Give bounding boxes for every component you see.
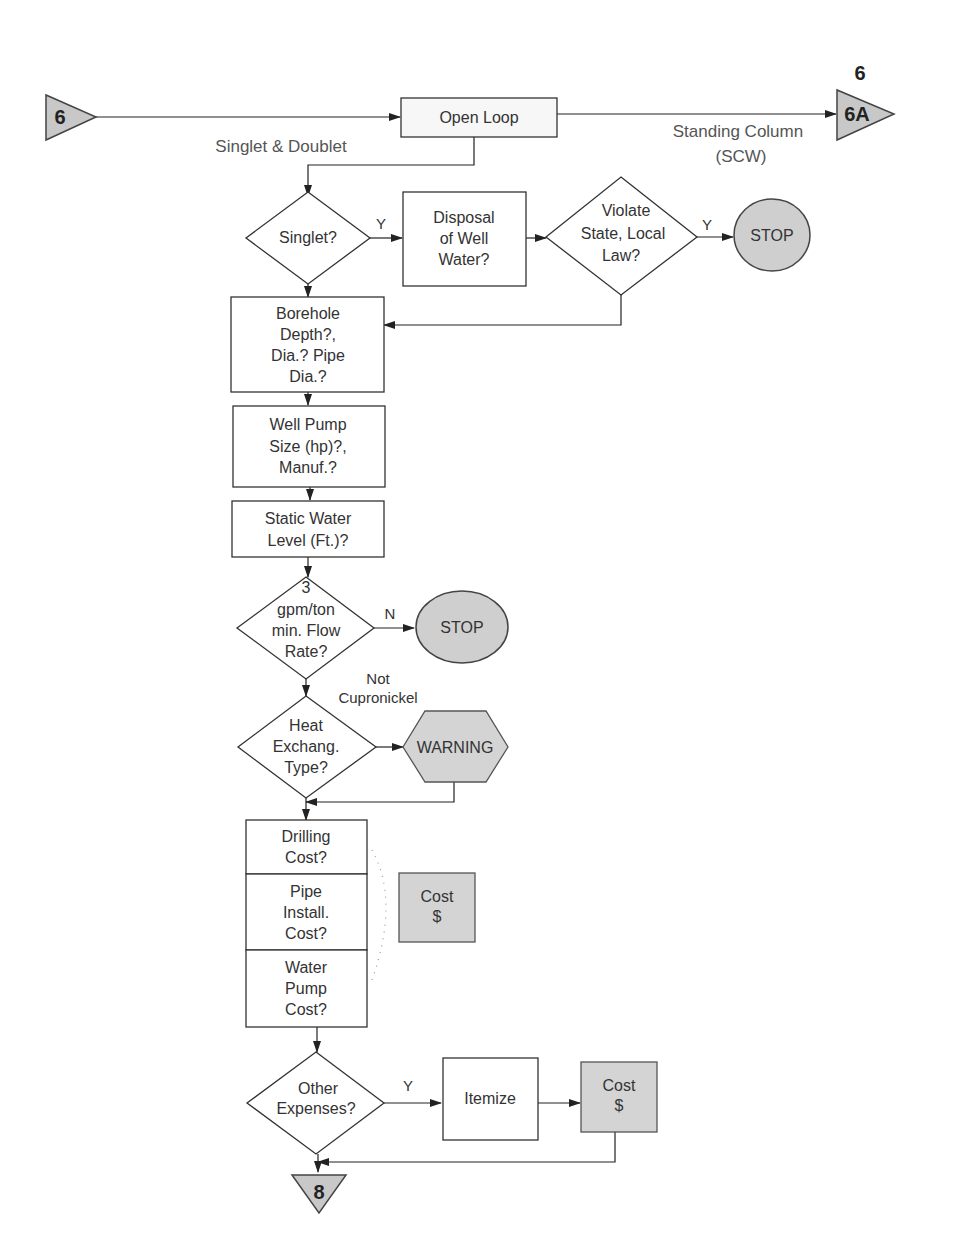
svg-text:Exchang.: Exchang. [273, 738, 340, 755]
svg-text:Disposal: Disposal [433, 209, 494, 226]
svg-text:Cost?: Cost? [285, 849, 327, 866]
node-cost-1[interactable]: Cost $ [399, 873, 475, 942]
connector-8[interactable]: 8 [292, 1175, 346, 1213]
label-violate-yes: Y [702, 216, 712, 233]
svg-text:6A: 6A [844, 103, 870, 125]
node-cost-stack: Drilling Cost? Pipe Install. Cost? Water… [246, 820, 367, 1027]
node-warning[interactable]: WARNING [403, 711, 508, 782]
svg-text:8: 8 [313, 1181, 324, 1203]
svg-text:Manuf.?: Manuf.? [279, 459, 337, 476]
edge-warning-return [306, 781, 454, 802]
svg-text:Open Loop: Open Loop [439, 109, 518, 126]
node-singlet[interactable]: Singlet? [246, 192, 370, 284]
label-flow-no: N [385, 605, 396, 622]
svg-text:STOP: STOP [750, 227, 793, 244]
svg-text:Heat: Heat [289, 717, 323, 734]
svg-text:Static Water: Static Water [265, 510, 352, 527]
label-singlet-yes: Y [376, 215, 386, 232]
node-flow-rate[interactable]: 3 gpm/ton min. Flow Rate? [237, 577, 374, 679]
svg-text:Install.: Install. [283, 904, 329, 921]
svg-text:Violate: Violate [602, 202, 651, 219]
svg-text:Other: Other [298, 1080, 339, 1097]
node-heat-exchang[interactable]: Heat Exchang. Type? [238, 696, 376, 798]
svg-text:min. Flow: min. Flow [272, 622, 341, 639]
label-standing-column: Standing Column [673, 122, 803, 141]
node-stop-2[interactable]: STOP [416, 591, 508, 663]
node-pipe-install-cost[interactable]: Pipe Install. Cost? [246, 874, 367, 950]
node-open-loop[interactable]: Open Loop [401, 98, 557, 137]
svg-text:WARNING: WARNING [417, 739, 494, 756]
node-well-pump[interactable]: Well Pump Size (hp)?, Manuf.? [233, 406, 385, 487]
svg-text:State, Local: State, Local [581, 225, 666, 242]
svg-text:Well Pump: Well Pump [269, 416, 346, 433]
svg-text:6: 6 [854, 62, 865, 84]
svg-text:Cost?: Cost? [285, 1001, 327, 1018]
cost-bracket-dots [372, 850, 386, 980]
svg-text:Cost?: Cost? [285, 925, 327, 942]
svg-text:Water?: Water? [439, 251, 490, 268]
svg-text:Drilling: Drilling [282, 828, 331, 845]
node-other-expenses[interactable]: Other Expenses? [247, 1052, 384, 1154]
svg-text:Size (hp)?,: Size (hp)?, [269, 438, 346, 455]
node-stop-1[interactable]: STOP [734, 199, 810, 271]
connector-6a[interactable]: 6A 6 [837, 62, 894, 140]
label-cupronickel: Cupronickel [338, 689, 417, 706]
svg-text:Dia.? Pipe: Dia.? Pipe [271, 347, 345, 364]
svg-text:$: $ [615, 1097, 624, 1114]
label-singlet-doublet: Singlet & Doublet [215, 137, 347, 156]
svg-text:Level (Ft.)?: Level (Ft.)? [268, 532, 349, 549]
svg-text:gpm/ton: gpm/ton [277, 601, 335, 618]
node-cost-2[interactable]: Cost $ [581, 1062, 657, 1132]
node-borehole[interactable]: Borehole Depth?, Dia.? Pipe Dia.? [231, 297, 384, 392]
svg-text:Law?: Law? [602, 247, 640, 264]
svg-text:Pump: Pump [285, 980, 327, 997]
label-not: Not [366, 670, 390, 687]
svg-text:Cost: Cost [603, 1077, 636, 1094]
svg-text:Type?: Type? [284, 759, 328, 776]
svg-text:Water: Water [285, 959, 328, 976]
svg-text:6: 6 [54, 106, 65, 128]
label-scw: (SCW) [716, 147, 767, 166]
label-other-yes: Y [403, 1077, 413, 1094]
svg-text:Depth?,: Depth?, [280, 326, 336, 343]
svg-text:Singlet?: Singlet? [279, 229, 337, 246]
node-water-pump-cost[interactable]: Water Pump Cost? [246, 950, 367, 1027]
svg-text:Expenses?: Expenses? [276, 1100, 355, 1117]
svg-text:of Well: of Well [440, 230, 489, 247]
svg-text:Itemize: Itemize [464, 1090, 516, 1107]
node-itemize[interactable]: Itemize [443, 1058, 538, 1140]
connector-6[interactable]: 6 [46, 95, 96, 140]
edge-violate-to-borehole [384, 295, 621, 325]
svg-text:Pipe: Pipe [290, 883, 322, 900]
svg-text:Borehole: Borehole [276, 305, 340, 322]
node-violate[interactable]: Violate State, Local Law? [546, 177, 697, 295]
svg-text:$: $ [433, 908, 442, 925]
svg-text:STOP: STOP [440, 619, 483, 636]
node-static-water[interactable]: Static Water Level (Ft.)? [232, 501, 384, 557]
svg-text:3: 3 [302, 579, 311, 596]
svg-text:Cost: Cost [421, 888, 454, 905]
svg-text:Rate?: Rate? [285, 643, 328, 660]
svg-text:Dia.?: Dia.? [289, 368, 326, 385]
flowchart: 6 6A 6 8 Singlet & Doublet Standing Colu… [0, 0, 961, 1249]
node-drilling-cost[interactable]: Drilling Cost? [246, 820, 367, 874]
node-disposal[interactable]: Disposal of Well Water? [403, 192, 526, 286]
